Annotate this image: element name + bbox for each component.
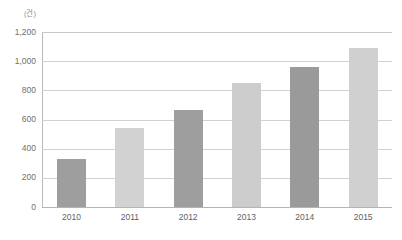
y-axis-tick-label: 400 xyxy=(2,144,36,153)
gridline xyxy=(42,207,392,208)
gridline xyxy=(42,32,392,33)
unit-label: (건) xyxy=(24,9,36,19)
y-axis-tick-label: 200 xyxy=(2,173,36,182)
x-axis-tick-label: 2014 xyxy=(280,212,330,223)
gridline xyxy=(42,120,392,121)
x-axis-tick-labels: 201020112012201320142015 xyxy=(42,212,392,228)
y-axis-tick-label: 0 xyxy=(2,203,36,212)
plot-area xyxy=(42,32,392,207)
bar xyxy=(290,67,319,207)
bar xyxy=(174,110,203,207)
y-axis-tick-labels: 02004006008001,0001,200 xyxy=(0,32,36,207)
x-axis-tick-label: 2010 xyxy=(47,212,97,223)
gridline xyxy=(42,90,392,91)
y-axis-tick-label: 800 xyxy=(2,86,36,95)
bar-chart: (건) 02004006008001,0001,200 201020112012… xyxy=(0,0,402,240)
bar xyxy=(115,128,144,207)
y-axis-tick-label: 1,200 xyxy=(2,28,36,37)
bar xyxy=(349,48,378,207)
x-axis-tick-label: 2011 xyxy=(105,212,155,223)
y-axis-tick-label: 1,000 xyxy=(2,57,36,66)
bar xyxy=(57,159,86,207)
x-axis-tick-label: 2012 xyxy=(163,212,213,223)
y-axis-tick-label: 600 xyxy=(2,115,36,124)
x-axis-tick-label: 2015 xyxy=(338,212,388,223)
gridline xyxy=(42,149,392,150)
gridline xyxy=(42,178,392,179)
gridline xyxy=(42,61,392,62)
x-axis-tick-label: 2013 xyxy=(222,212,272,223)
bar xyxy=(232,83,261,207)
